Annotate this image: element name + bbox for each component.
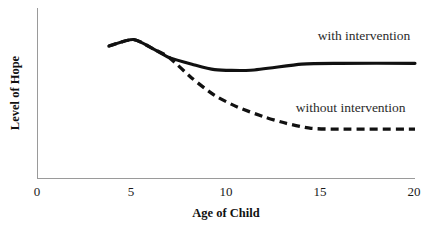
- x-axis-title: Age of Child: [192, 206, 259, 220]
- series-label-with-intervention: with intervention: [318, 28, 411, 43]
- x-tick-label-15: 15: [314, 184, 327, 199]
- series-label-without-intervention: without intervention: [296, 100, 406, 115]
- line-chart: 0 5 10 15 20 Age of Child Level of Hope …: [0, 0, 423, 228]
- series-line-without-intervention: [109, 39, 415, 129]
- x-tick-label-0: 0: [34, 184, 41, 199]
- x-tick-label-20: 20: [408, 184, 421, 199]
- series-line-with-intervention: [109, 39, 415, 70]
- x-tick-label-5: 5: [128, 184, 135, 199]
- x-tick-label-10: 10: [220, 184, 233, 199]
- x-tick-labels: 0 5 10 15 20: [34, 184, 421, 199]
- y-axis-title: Level of Hope: [8, 55, 22, 130]
- chart-container: 0 5 10 15 20 Age of Child Level of Hope …: [0, 0, 423, 228]
